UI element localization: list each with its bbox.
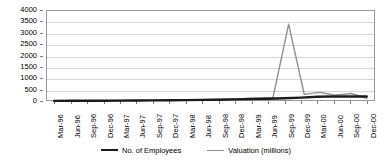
legend-item-valuation: Valuation (millions)	[207, 146, 291, 155]
x-axis-tick-label: Dec-97	[172, 114, 180, 138]
series-layer	[46, 10, 375, 101]
y-axis-tick-label: 3500	[20, 17, 37, 25]
line-swatch-employees-icon	[101, 149, 118, 151]
x-axis-tick-label: Jun-99	[271, 115, 279, 138]
y-axis-tick-mark	[40, 21, 43, 22]
x-axis-tick-label: Mar-99	[255, 114, 263, 138]
y-axis-tick-label: 1500	[20, 63, 37, 71]
x-axis-tick-label: Sep-97	[156, 114, 164, 138]
y-axis-tick-label: 2000	[20, 52, 37, 60]
y-axis-tick-mark	[40, 56, 43, 57]
x-axis-tick-label: Dec-98	[238, 114, 246, 138]
y-axis-tick-label: 500	[24, 86, 37, 94]
series-line-valuation	[54, 24, 367, 101]
x-axis-tick-label: Jun-96	[74, 115, 82, 138]
y-axis-tick-mark	[40, 67, 43, 68]
y-axis-tick-mark	[40, 90, 43, 91]
x-axis-tick-label: Dec-99	[304, 114, 312, 138]
y-axis-tick-mark	[40, 10, 43, 11]
y-axis-tick-label: 2500	[20, 40, 37, 48]
x-axis-tick-label: Mar-97	[123, 114, 131, 138]
x-axis-tick-label: Sep-96	[90, 114, 98, 138]
x-axis-tick-label: Mar-98	[189, 114, 197, 138]
y-axis-tick-mark	[40, 101, 43, 102]
x-axis-tick-label: Sep-00	[353, 114, 361, 138]
y-axis-tick-label: 3000	[20, 29, 37, 37]
y-axis-tick-mark	[40, 44, 43, 45]
legend-item-employees: No. of Employees	[101, 146, 181, 155]
y-axis-tick-mark	[40, 33, 43, 34]
legend-label-employees: No. of Employees	[122, 146, 181, 155]
x-axis-tick-label: Jun-00	[337, 115, 345, 138]
series-line-employees	[54, 96, 367, 101]
x-axis-tick-label: Sep-98	[222, 114, 230, 138]
x-axis-tick-label: Dec-00	[370, 114, 378, 138]
x-axis-tick-label: Dec-96	[107, 114, 115, 138]
y-axis-tick-label: 1000	[20, 74, 37, 82]
chart-container: 40003500300025002000150010005000 Mar-96J…	[0, 0, 392, 164]
line-swatch-valuation-icon	[207, 150, 224, 151]
chart-legend: No. of Employees Valuation (millions)	[0, 143, 392, 157]
y-axis-tick-mark	[40, 78, 43, 79]
x-axis-labels: Mar-96Jun-96Sep-96Dec-96Mar-97Jun-97Sep-…	[0, 104, 392, 140]
y-axis-tick-label: 4000	[20, 6, 37, 14]
x-axis-tick-label: Mar-00	[320, 114, 328, 138]
x-axis-tick-label: Mar-96	[57, 114, 65, 138]
x-axis-tick-label: Sep-99	[288, 114, 296, 138]
x-axis-tick-label: Jun-98	[205, 115, 213, 138]
legend-label-valuation: Valuation (millions)	[228, 146, 291, 155]
x-axis-tick-label: Jun-97	[139, 115, 147, 138]
